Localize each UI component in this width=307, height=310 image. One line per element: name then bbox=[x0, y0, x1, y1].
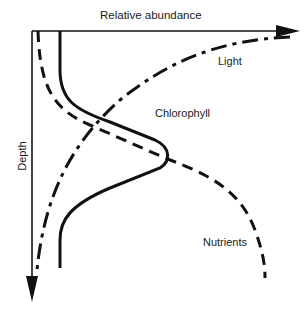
x-axis-arrowhead bbox=[276, 25, 300, 37]
y-axis-arrowhead bbox=[26, 276, 38, 302]
nutrients-label: Nutrients bbox=[203, 236, 247, 248]
light-label: Light bbox=[218, 55, 242, 67]
y-axis-label: Depth bbox=[16, 136, 28, 176]
chlorophyll-label: Chlorophyll bbox=[155, 107, 210, 119]
light-curve bbox=[37, 37, 290, 270]
chlorophyll-curve bbox=[60, 31, 168, 268]
depth-profile-diagram bbox=[0, 0, 307, 310]
x-axis-label: Relative abundance bbox=[100, 9, 202, 21]
